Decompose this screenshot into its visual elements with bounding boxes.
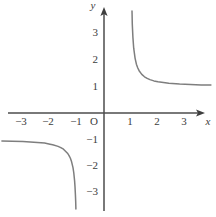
x-tick-neg-2: −2 (42, 115, 54, 127)
x-tick-3: 3 (181, 115, 187, 127)
y-tick-2: 2 (93, 53, 99, 65)
x-axis-label: x (205, 115, 211, 127)
curve-right-branch (132, 11, 211, 85)
x-tick-2: 2 (154, 115, 160, 127)
function-graph-figure: y x O −3 −2 −1 1 2 3 3 2 1 −1 −2 −3 (0, 0, 216, 217)
origin-label: O (90, 115, 98, 127)
curve-left-branch (2, 141, 76, 209)
x-tick-neg-3: −3 (15, 115, 27, 127)
y-tick-neg-3: −3 (86, 185, 98, 197)
y-tick-neg-2: −2 (86, 159, 98, 171)
x-tick-neg-1: −1 (70, 115, 82, 127)
y-tick-neg-1: −1 (86, 133, 98, 145)
y-tick-3: 3 (93, 26, 99, 38)
plot-canvas: y x O −3 −2 −1 1 2 3 3 2 1 −1 −2 −3 (0, 0, 216, 217)
y-tick-1: 1 (93, 80, 99, 92)
x-tick-1: 1 (127, 115, 133, 127)
y-axis-label: y (90, 0, 96, 11)
